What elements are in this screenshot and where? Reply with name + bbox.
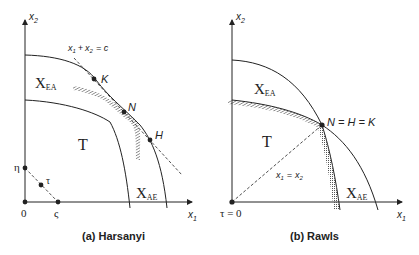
y-axis-label: x2 [28,11,38,24]
panel-harsanyi: x2 x1 x1+x2= c XEA T XAE K N H η τ ς 0 (… [14,11,197,242]
budget-line-label: x1+x2= c [67,43,109,54]
hatched-boundary-side [318,125,340,210]
inner-frontier-curve [232,100,340,210]
region-X-EA-label: XEA [254,81,276,98]
label-H: H [155,129,163,141]
caption-harsanyi: (a) Harsanyi [82,230,145,242]
point-N [122,110,127,115]
x-axis-label: x1 [187,209,197,222]
diagonal-label: x1=x2 [275,170,304,181]
label-N: N [128,101,136,113]
point-origin [229,199,234,204]
figure-canvas: x2 x1 x1+x2= c XEA T XAE K N H η τ ς 0 (… [0,0,419,255]
y-axis-label: x2 [235,11,245,24]
hatched-boundary-top [228,100,322,128]
label-K: K [101,73,109,85]
point-origin [23,200,28,205]
panel-rawls: x2 x1 XEA T XAE N = H = K x1=x2 τ = 0 (b… [220,11,406,242]
region-X-AE-label: XAE [346,185,368,202]
region-X-EA-label: XEA [35,75,57,92]
region-X-AE-label: XAE [136,185,158,202]
point-H [148,138,153,143]
region-T-label: T [262,133,272,150]
label-origin: τ = 0 [220,207,242,219]
label-NHK: N = H = K [327,116,376,128]
label-zeta: ς [54,207,59,219]
x-axis-label: x1 [396,209,406,222]
label-tau: τ [46,175,50,186]
diagonal-line [232,125,322,202]
point-NHK [319,122,324,127]
region-T-label: T [78,136,88,153]
label-origin: 0 [21,207,27,219]
point-K [92,77,97,82]
inner-frontier-curve [25,100,130,208]
label-eta: η [14,161,20,173]
caption-rawls: (b) Rawls [290,230,339,242]
